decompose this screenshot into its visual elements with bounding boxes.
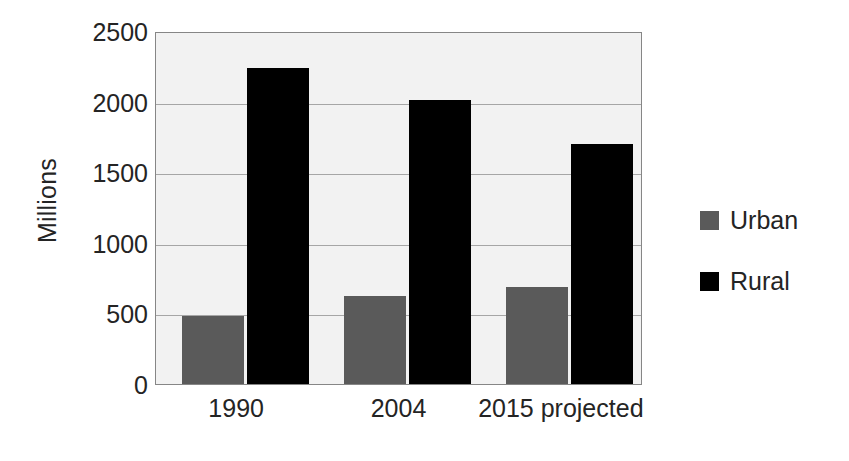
legend-label-rural: Rural xyxy=(730,269,790,294)
legend-swatch-rural-icon xyxy=(700,272,719,291)
y-axis-tick-2500: 2500 xyxy=(30,18,148,47)
bars-layer xyxy=(156,33,641,384)
bar-urban-2015-projected xyxy=(506,287,568,384)
bar-urban-1990 xyxy=(182,316,244,384)
y-axis-tick-labels: 05001000150020002500 xyxy=(30,0,148,461)
x-axis-tick-2004: 2004 xyxy=(371,394,427,423)
bar-rural-2004 xyxy=(409,100,471,384)
legend-item-rural: Rural xyxy=(700,269,840,294)
bar-rural-2015-projected xyxy=(571,144,633,384)
y-axis-tick-500: 500 xyxy=(30,300,148,329)
y-axis-tick-1500: 1500 xyxy=(30,159,148,188)
plot-area xyxy=(155,32,642,385)
bar-chart: Millions 05001000150020002500 1990200420… xyxy=(0,0,849,461)
bar-rural-1990 xyxy=(247,68,309,384)
legend-label-urban: Urban xyxy=(730,208,798,233)
legend-item-urban: Urban xyxy=(700,208,840,233)
y-axis-tick-2000: 2000 xyxy=(30,88,148,117)
y-axis-tick-1000: 1000 xyxy=(30,229,148,258)
x-axis-tick-2015-projected: 2015 projected xyxy=(478,394,643,423)
x-axis-tick-1990: 1990 xyxy=(208,394,264,423)
bar-urban-2004 xyxy=(344,296,406,384)
legend-swatch-urban-icon xyxy=(700,211,719,230)
chart-legend: Urban Rural xyxy=(700,208,840,330)
y-axis-tick-0: 0 xyxy=(30,371,148,400)
x-axis-tick-labels: 199020042015 projected xyxy=(155,394,642,434)
